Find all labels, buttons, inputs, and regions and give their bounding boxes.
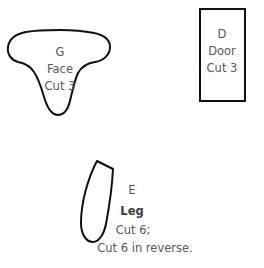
leg-piece-letter: E	[128, 185, 135, 197]
face-piece-letter: G	[56, 47, 65, 59]
door-piece-cut-instruction: Cut 3	[207, 63, 238, 75]
leg-piece-name: Leg	[120, 206, 143, 218]
face-piece-cut-instruction: Cut 3	[45, 81, 76, 93]
leg-piece-outline	[81, 161, 113, 242]
door-piece-name: Door	[208, 46, 236, 58]
pattern-sheet: G Face Cut 3 D Door Cut 3 E Leg Cut 6; C…	[0, 0, 264, 268]
face-piece-name: Face	[47, 64, 73, 76]
leg-piece-cut-instruction: Cut 6;	[116, 225, 151, 237]
door-piece-letter: D	[218, 29, 227, 41]
leg-piece-cut-instruction-reverse: Cut 6 in reverse.	[97, 243, 192, 255]
